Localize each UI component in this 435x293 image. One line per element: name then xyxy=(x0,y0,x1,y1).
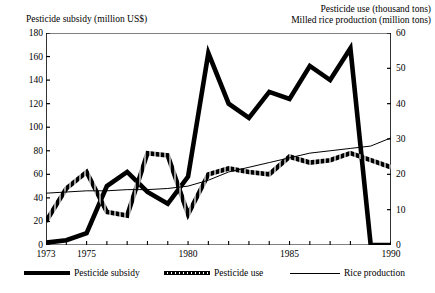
series-line-rice-production xyxy=(46,138,391,193)
series-lines xyxy=(46,48,391,245)
series-line-pesticide-subsidy xyxy=(46,48,391,245)
legend-swatch-subsidy-icon xyxy=(24,271,70,275)
legend-swatch-rice-icon xyxy=(290,273,340,274)
x-tick-1980: 1980 xyxy=(179,249,198,259)
left-tick-60: 60 xyxy=(34,169,44,179)
legend-item-rice-production: Rice production xyxy=(290,268,405,278)
right-tick-50: 50 xyxy=(396,63,406,73)
legend-item-pesticide-subsidy: Pesticide subsidy xyxy=(24,268,140,278)
right-tick-60: 60 xyxy=(396,28,406,38)
plot-svg xyxy=(46,33,391,245)
x-tick-1975: 1975 xyxy=(77,249,96,259)
right-tick-40: 40 xyxy=(396,99,406,109)
right-axis-title-line1: Pesticide use (thousand tons) xyxy=(291,4,431,15)
left-tick-160: 160 xyxy=(29,52,43,62)
legend-label-use: Pesticide use xyxy=(214,268,263,278)
chart-container: Pesticide subsidy (million US$) Pesticid… xyxy=(0,0,435,293)
left-axis-title: Pesticide subsidy (million US$) xyxy=(26,14,147,25)
left-axis-tick-labels: 020406080100120140160180 xyxy=(18,33,43,245)
x-tick-1990: 1990 xyxy=(382,249,401,259)
legend-label-rice: Rice production xyxy=(344,268,405,278)
left-tick-100: 100 xyxy=(29,122,43,132)
right-tick-30: 30 xyxy=(396,134,406,144)
left-tick-80: 80 xyxy=(34,146,44,156)
legend-item-pesticide-use: Pesticide use xyxy=(164,268,263,278)
right-axis-tick-labels: 0102030405060 xyxy=(396,33,426,245)
right-axis-title: Pesticide use (thousand tons) Milled ric… xyxy=(291,4,431,26)
left-tick-40: 40 xyxy=(34,193,44,203)
right-axis-title-line2: Milled rice production (million tons) xyxy=(291,15,431,26)
chart-legend: Pesticide subsidy Pesticide use Rice pro… xyxy=(24,268,424,286)
left-tick-20: 20 xyxy=(34,216,44,226)
legend-swatch-use-icon xyxy=(164,271,210,275)
legend-label-subsidy: Pesticide subsidy xyxy=(74,268,140,278)
x-axis-tick-labels: 19731975198019851990 xyxy=(0,247,435,263)
plot-area xyxy=(46,33,391,245)
right-tick-10: 10 xyxy=(396,205,406,215)
right-tick-20: 20 xyxy=(396,169,406,179)
left-tick-120: 120 xyxy=(29,99,43,109)
left-tick-140: 140 xyxy=(29,75,43,85)
left-tick-180: 180 xyxy=(29,28,43,38)
x-tick-1985: 1985 xyxy=(280,249,299,259)
x-tick-1973: 1973 xyxy=(37,249,56,259)
